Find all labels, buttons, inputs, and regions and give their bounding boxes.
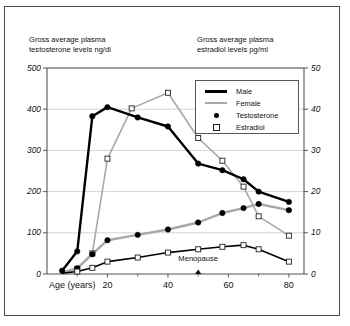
left-tick-label-500: 500 xyxy=(9,63,41,73)
left-axis-title: Gross average plasma testosterone levels… xyxy=(29,35,179,54)
x-tick-label-60: 60 xyxy=(214,280,242,290)
legend-female-line-icon xyxy=(203,102,229,105)
filled-circle-icon xyxy=(203,113,229,118)
legend-label-male: Male xyxy=(236,87,252,96)
open-square-icon xyxy=(203,124,229,131)
figure-frame: Gross average plasma testosterone levels… xyxy=(4,6,340,316)
x-tick-label-20: 20 xyxy=(93,280,121,290)
legend-label-estradiol: Estradiol xyxy=(236,123,265,132)
right-tick-label-0: 0 xyxy=(311,269,335,279)
left-tick-label-400: 400 xyxy=(9,104,41,114)
legend-item-estradiol: Estradiol xyxy=(196,121,298,133)
chart-legend: Male Female Testosterone Estradiol xyxy=(195,80,299,134)
left-axis-title-line2: testosterone levels ng/dl xyxy=(29,45,179,55)
right-tick-label-10: 10 xyxy=(311,227,335,237)
x-tick-label-80: 80 xyxy=(275,280,303,290)
left-axis-title-line1: Gross average plasma xyxy=(29,35,179,45)
x-tick-label-40: 40 xyxy=(154,280,182,290)
left-tick-label-100: 100 xyxy=(9,227,41,237)
left-tick-label-300: 300 xyxy=(9,145,41,155)
legend-male-line-icon xyxy=(203,90,229,93)
right-tick-label-40: 40 xyxy=(311,104,335,114)
menopause-annotation: Menopause xyxy=(166,254,230,263)
legend-label-testosterone: Testosterone xyxy=(236,111,278,120)
legend-item-testosterone: Testosterone xyxy=(196,109,298,121)
right-axis-title-line2: estradiol levels pg/ml xyxy=(197,45,327,55)
right-tick-label-20: 20 xyxy=(311,186,335,196)
right-axis-title-line1: Gross average plasma xyxy=(197,35,327,45)
legend-item-male: Male xyxy=(196,85,298,97)
right-tick-label-50: 50 xyxy=(311,63,335,73)
left-tick-label-0: 0 xyxy=(9,269,41,279)
legend-label-female: Female xyxy=(236,99,261,108)
x-axis-title: Age (years) xyxy=(49,280,96,290)
left-tick-label-200: 200 xyxy=(9,186,41,196)
right-axis-title: Gross average plasma estradiol levels pg… xyxy=(197,35,327,54)
right-tick-label-30: 30 xyxy=(311,145,335,155)
legend-item-female: Female xyxy=(196,97,298,109)
